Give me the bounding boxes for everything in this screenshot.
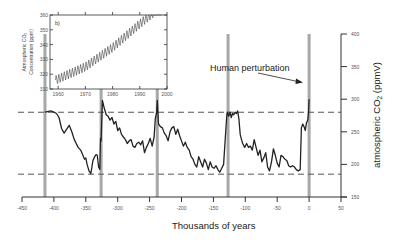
x-tick-label: -350 [81,205,91,211]
annotation-arrow [258,73,303,84]
inset-x-tick-label: 1970 [80,91,91,97]
x-tick-label: -150 [208,205,218,211]
annotation-label: Human perturbation [210,63,290,73]
inset-panel-label: b) [55,20,60,26]
x-tick-label: 0 [308,205,311,211]
inset-x-tick-label: 1980 [107,91,118,97]
inset-y-tick-label: 330 [40,56,49,62]
x-tick-label: -400 [49,205,59,211]
y-tick-label: 400 [351,31,360,37]
x-tick-label: -300 [113,205,123,211]
co2-series-line [45,99,309,173]
inset-y-tick-label: 360 [40,12,49,18]
x-axis-title: Thousands of years [172,220,256,231]
inset-y-tick-label: 320 [40,71,49,77]
y-tick-label: 150 [351,194,360,200]
inset-x-tick-label: 1960 [53,91,64,97]
y-tick-label: 200 [351,161,360,167]
y-tick-label: 350 [351,64,360,70]
y-axis-title: atmospheric CO2 (ppmV) [371,62,383,168]
inset-y-axis-title-line2: Concentration (ppm) [28,29,34,75]
inset-y-tick-label: 350 [40,27,49,33]
inset-x-tick-label: 2000 [161,91,172,97]
inset-y-tick-label: 310 [40,86,49,92]
chart-canvas: -450-400-350-300-250-200-150-100-5005015… [0,0,403,246]
x-tick-label: -450 [17,205,27,211]
x-tick-label: -100 [240,205,250,211]
y-tick-label: 250 [351,129,360,135]
inset-y-tick-label: 340 [40,42,49,48]
inset-x-tick-label: 1990 [134,91,145,97]
co2-figure: -450-400-350-300-250-200-150-100-5005015… [0,0,403,246]
reference-lines [18,112,341,174]
x-tick-label: -250 [145,205,155,211]
x-tick-label: 50 [338,205,344,211]
y-tick-label: 300 [351,96,360,102]
x-tick-label: -200 [176,205,186,211]
x-tick-label: -50 [274,205,281,211]
